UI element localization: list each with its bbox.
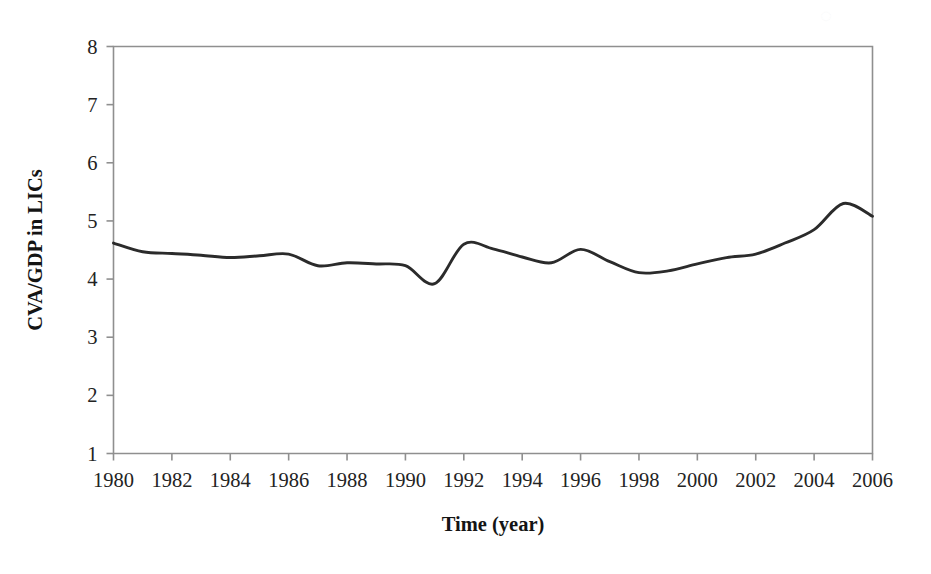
x-tick-label: 2002 — [735, 469, 776, 491]
y-tick-label: 7 — [87, 94, 97, 116]
y-tick-label: 5 — [87, 210, 97, 232]
line-chart: 12345678 1980198219841986198819901992199… — [0, 0, 931, 574]
y-tick-label: 3 — [87, 326, 97, 348]
x-tick-label: 2006 — [852, 469, 893, 491]
chart-container: ◌ 12345678 19801982198419861988199019921… — [0, 0, 931, 574]
y-axis-title: CVA/GDP in LICs — [24, 169, 46, 330]
y-tick-label: 6 — [87, 152, 97, 174]
x-tick-label: 1998 — [618, 469, 659, 491]
x-tick-label: 2004 — [794, 469, 835, 491]
x-tick-label: 1988 — [327, 469, 368, 491]
x-axis-title: Time (year) — [442, 513, 545, 536]
x-tick-label: 1992 — [443, 469, 484, 491]
x-tick-label: 1986 — [268, 469, 309, 491]
x-tick-label: 1994 — [502, 469, 543, 491]
x-tick-label: 1990 — [385, 469, 426, 491]
y-tick-label: 2 — [87, 384, 97, 406]
x-tick-label: 1984 — [210, 469, 251, 491]
y-tick-label: 4 — [87, 268, 97, 290]
x-tick-label: 2000 — [677, 469, 718, 491]
x-tick-label: 1980 — [93, 469, 134, 491]
x-tick-label: 1996 — [560, 469, 601, 491]
y-tick-label: 8 — [87, 36, 97, 58]
x-tick-label: 1982 — [151, 469, 192, 491]
y-tick-label: 1 — [87, 443, 97, 465]
